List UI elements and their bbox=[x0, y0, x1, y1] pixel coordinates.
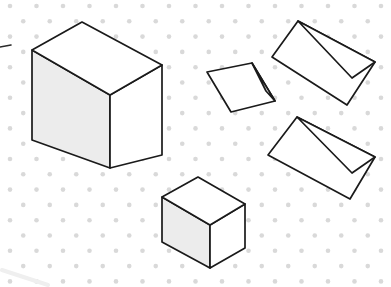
shape-large-rectangular-prism[interactable] bbox=[32, 22, 162, 168]
bottom-left-smudge bbox=[2, 270, 48, 285]
worksheet-canvas: Isometric dot paper with five drawn soli… bbox=[0, 0, 391, 287]
shape-triangular-prism-lower-right[interactable] bbox=[268, 117, 375, 199]
shape-triangular-prism-small-left[interactable] bbox=[207, 63, 275, 112]
solids-drawing bbox=[0, 0, 391, 287]
shape-triangular-prism-top-right[interactable] bbox=[272, 21, 375, 105]
shape-small-rectangular-prism[interactable] bbox=[162, 177, 245, 268]
left-edge-mark bbox=[0, 45, 11, 47]
